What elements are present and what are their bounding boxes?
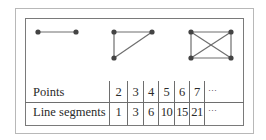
table-cell: 3 [128, 105, 143, 119]
table-cell: 15 [174, 105, 190, 119]
row-label-line-segments: Line segments [33, 105, 106, 119]
table-cell: 4 [144, 85, 158, 99]
table-cell: 6 [175, 85, 189, 99]
figure-two-points [35, 29, 78, 34]
table-cell: 5 [159, 85, 174, 99]
ellipsis: ··· [208, 83, 217, 97]
table-cell: 1 [110, 105, 127, 119]
ellipsis: ··· [208, 103, 217, 117]
figures-diagram [0, 0, 266, 140]
row-label-points: Points [33, 85, 64, 99]
figure-four-points [188, 29, 233, 60]
table-cell: 3 [128, 85, 143, 99]
table-cell: 2 [110, 85, 127, 99]
table-cell: 10 [158, 105, 175, 119]
table-cell: 6 [144, 105, 158, 119]
figure-three-points [111, 29, 154, 60]
table-cell: 7 [190, 85, 204, 99]
table-cell: 21 [189, 105, 205, 119]
